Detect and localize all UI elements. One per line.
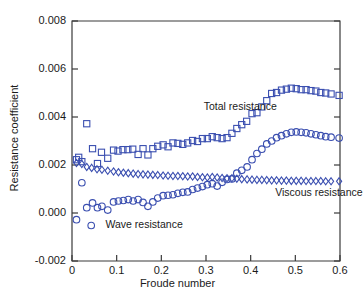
data-point <box>161 172 166 179</box>
x-tick-label: 0.3 <box>186 264 226 276</box>
x-tick-label: 0.2 <box>141 264 181 276</box>
data-point <box>79 179 86 186</box>
data-point <box>165 172 170 179</box>
data-point <box>249 156 256 163</box>
data-point <box>111 168 116 175</box>
data-point <box>121 169 126 176</box>
y-axis-title: Resistance coefficient <box>8 38 20 238</box>
data-point <box>264 177 269 184</box>
wave-resistance-label: Wave resistance <box>106 218 183 230</box>
wave-resistance-legend-marker <box>88 222 95 229</box>
series-total-resistance <box>73 85 342 167</box>
legend-marker-layer <box>88 222 95 229</box>
data-point <box>126 170 131 177</box>
data-point <box>94 204 101 211</box>
data-point <box>249 176 254 183</box>
data-point <box>245 176 250 183</box>
data-point <box>210 173 215 180</box>
data-point <box>105 167 110 174</box>
data-point <box>145 152 151 158</box>
y-tick-label: 0.008 <box>20 14 66 26</box>
data-point <box>336 135 343 142</box>
data-point <box>84 121 90 127</box>
data-point <box>145 171 150 178</box>
data-point <box>150 171 155 178</box>
data-point <box>104 207 111 214</box>
y-tick-label: 0.002 <box>20 158 66 170</box>
data-point <box>116 169 121 176</box>
data-point <box>89 164 94 171</box>
data-point <box>180 173 185 180</box>
data-point <box>323 178 328 185</box>
data-point <box>263 141 270 148</box>
data-point <box>200 174 205 181</box>
data-point <box>136 171 141 178</box>
data-point <box>155 171 160 178</box>
data-point <box>244 164 251 171</box>
data-point <box>98 149 104 155</box>
data-point <box>337 178 342 185</box>
data-point <box>131 170 136 177</box>
data-point <box>239 176 244 183</box>
data-point <box>99 166 104 173</box>
x-tick-label: 0.4 <box>231 264 271 276</box>
y-tick-label: 0.004 <box>20 110 66 122</box>
data-point <box>195 173 200 180</box>
x-tick-label: 0 <box>52 264 92 276</box>
y-tick-label: 0.006 <box>20 62 66 74</box>
viscous-resistance-label: Viscous resistance <box>275 186 362 198</box>
data-point <box>259 146 266 153</box>
total-resistance-label: Total resistance <box>204 100 277 112</box>
data-point <box>328 178 333 185</box>
data-point <box>73 216 80 223</box>
x-tick-label: 0.6 <box>320 264 360 276</box>
data-point <box>336 92 342 98</box>
y-tick-label: 0.000 <box>20 206 66 218</box>
x-axis-title: Froude number <box>0 277 355 289</box>
x-tick-label: 0.1 <box>97 264 137 276</box>
data-point <box>89 146 95 152</box>
data-point <box>140 171 145 178</box>
x-tick-label: 0.5 <box>275 264 315 276</box>
data-point <box>105 155 111 161</box>
data-point <box>205 174 210 181</box>
data-point <box>83 204 90 211</box>
